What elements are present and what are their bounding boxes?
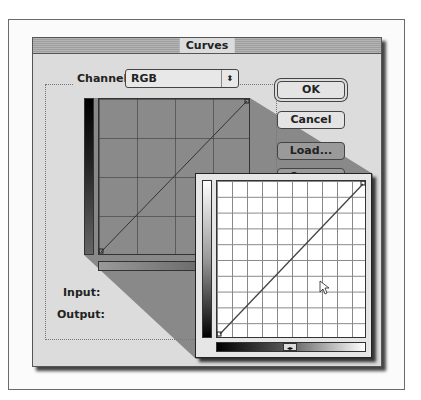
title-bar[interactable]: Curves	[33, 38, 381, 54]
mouse-cursor-icon	[320, 281, 329, 294]
zoomed-output-gradient-bar	[202, 180, 212, 338]
zoomed-input-gradient-bar[interactable]: ◂▸	[216, 342, 366, 352]
channel-select[interactable]: RGB ⬍	[125, 69, 239, 88]
select-arrows-icon: ⬍	[221, 70, 238, 87]
cancel-button[interactable]: Cancel	[277, 111, 345, 129]
zoomed-curve-view: ◂▸	[195, 173, 372, 358]
zoomed-gradient-toggle-icon[interactable]: ◂▸	[283, 343, 297, 351]
zoomed-curve-graph[interactable]	[216, 180, 366, 338]
zoomed-curve-line	[217, 181, 365, 337]
load-button[interactable]: Load...	[277, 142, 345, 160]
ok-button[interactable]: OK	[277, 81, 345, 99]
input-label: Input:	[63, 286, 100, 299]
dialog-title: Curves	[180, 38, 235, 53]
output-gradient-bar	[84, 98, 94, 255]
channel-value: RGB	[131, 72, 157, 85]
output-label: Output:	[57, 308, 105, 321]
